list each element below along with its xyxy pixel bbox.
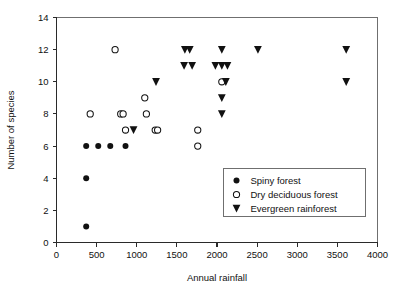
point-dry-deciduous-forest [155, 127, 161, 133]
point-spiny-forest [95, 143, 101, 149]
x-tick-label: 2500 [247, 249, 268, 260]
legend: Spiny forestDry deciduous forestEvergree… [224, 169, 366, 217]
point-evergreen-rainforest [188, 62, 196, 70]
x-tick-label: 1500 [166, 249, 187, 260]
scatter-plot-figure: 0500100015002000250030003500400002468101… [0, 0, 394, 295]
point-dry-deciduous-forest [112, 47, 118, 53]
point-spiny-forest [107, 143, 113, 149]
x-axis-title: Annual rainfall [187, 272, 247, 283]
point-evergreen-rainforest [218, 94, 226, 102]
legend-marker-open-circle-icon [233, 191, 239, 197]
chart-canvas: 0500100015002000250030003500400002468101… [0, 0, 394, 295]
point-dry-deciduous-forest [143, 111, 149, 117]
y-tick-label: 10 [38, 76, 49, 87]
point-evergreen-rainforest [130, 126, 138, 134]
series-spiny-forest [83, 143, 128, 229]
legend-marker-filled-circle-icon [234, 178, 240, 184]
point-dry-deciduous-forest [122, 127, 128, 133]
point-evergreen-rainforest [224, 62, 232, 70]
x-tick-label: 500 [89, 249, 105, 260]
point-spiny-forest [123, 143, 129, 149]
y-tick-label: 8 [43, 108, 48, 119]
point-evergreen-rainforest [342, 46, 350, 54]
x-tick-label: 3500 [327, 249, 348, 260]
point-evergreen-rainforest [342, 78, 350, 86]
point-evergreen-rainforest [254, 46, 262, 54]
y-tick-label: 4 [43, 173, 48, 184]
point-evergreen-rainforest [180, 62, 188, 70]
y-tick-label: 6 [43, 141, 48, 152]
point-spiny-forest [83, 223, 89, 229]
series-dry-deciduous-forest [87, 47, 225, 150]
point-dry-deciduous-forest [142, 95, 148, 101]
point-spiny-forest [83, 175, 89, 181]
y-tick-label: 2 [43, 205, 48, 216]
y-tick-label: 14 [38, 12, 49, 23]
point-evergreen-rainforest [152, 78, 160, 86]
point-dry-deciduous-forest [87, 111, 93, 117]
y-axis-title: Number of species [5, 90, 16, 169]
y-tick-label: 12 [38, 44, 49, 55]
point-dry-deciduous-forest [120, 111, 126, 117]
legend-label: Evergreen rainforest [251, 203, 337, 214]
point-evergreen-rainforest [211, 62, 219, 70]
x-tick-label: 4000 [367, 249, 388, 260]
legend-label: Spiny forest [251, 175, 302, 186]
x-tick-label: 2000 [206, 249, 227, 260]
x-tick-label: 1000 [126, 249, 147, 260]
legend-label: Dry deciduous forest [251, 189, 338, 200]
point-evergreen-rainforest [186, 46, 194, 54]
point-dry-deciduous-forest [195, 143, 201, 149]
x-tick-label: 0 [54, 249, 59, 260]
y-tick-label: 0 [43, 237, 48, 248]
point-evergreen-rainforest [218, 46, 226, 54]
point-spiny-forest [83, 143, 89, 149]
point-evergreen-rainforest [218, 110, 226, 118]
point-dry-deciduous-forest [195, 127, 201, 133]
series-evergreen-rainforest [130, 46, 350, 134]
x-tick-label: 3000 [287, 249, 308, 260]
